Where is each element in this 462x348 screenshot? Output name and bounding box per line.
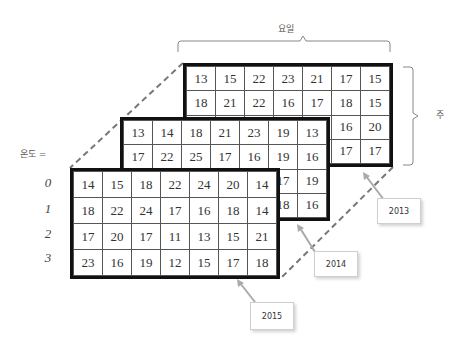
row-label-0: 0: [42, 175, 54, 191]
cell: 17: [332, 67, 361, 91]
table-row: 13141821231913: [124, 121, 327, 145]
cell: 14: [74, 172, 103, 198]
table-row: 18212216171815: [187, 91, 390, 115]
cell: 16: [332, 115, 361, 139]
cell: 22: [161, 172, 190, 198]
cell: 19: [269, 121, 298, 145]
cell: 15: [219, 224, 248, 250]
cell: 13: [187, 67, 216, 91]
cell: 17: [332, 139, 361, 163]
callout-2014: 2014: [314, 251, 358, 277]
cell: 17: [124, 145, 153, 169]
weeks-bracket: [403, 67, 418, 165]
table-row: 23161912151718: [74, 250, 277, 276]
cell: 23: [274, 67, 303, 91]
grid-2015: 14151822242014 18222417161814 1720171113…: [70, 168, 280, 279]
cell: 16: [274, 91, 303, 115]
cell: 17: [361, 139, 390, 163]
cell: 17: [303, 91, 332, 115]
cell: 21: [216, 91, 245, 115]
cell: 17: [74, 224, 103, 250]
cell: 18: [248, 250, 277, 276]
cell: 15: [190, 250, 219, 276]
callout-2013: 2013: [377, 198, 421, 224]
days-bracket: [178, 36, 390, 52]
cell: 11: [161, 224, 190, 250]
callout-pointer-2013: [366, 176, 384, 200]
cell: 23: [74, 250, 103, 276]
cell: 21: [303, 67, 332, 91]
cell: 21: [211, 121, 240, 145]
cell: 24: [132, 198, 161, 224]
cell: 19: [132, 250, 161, 276]
callout-pointer-2015: [240, 283, 255, 302]
cell: 12: [161, 250, 190, 276]
cell: 16: [190, 198, 219, 224]
cell: 17: [211, 145, 240, 169]
cell: 22: [245, 67, 274, 91]
temperature-label: 온도 =: [20, 147, 46, 160]
table-row: 17222517161916: [124, 145, 327, 169]
table-row: 14151822242014: [74, 172, 277, 198]
cell: 17: [219, 250, 248, 276]
cell: 21: [248, 224, 277, 250]
cell: 14: [248, 198, 277, 224]
cell: 18: [132, 172, 161, 198]
table-row: 13152223211715: [187, 67, 390, 91]
cell: 20: [361, 115, 390, 139]
cell: 17: [161, 198, 190, 224]
cell: 25: [182, 145, 211, 169]
cell: 24: [190, 172, 219, 198]
days-label: 요일: [278, 22, 294, 35]
cell: 14: [248, 172, 277, 198]
cell: 23: [240, 121, 269, 145]
weeks-label: 주: [433, 110, 446, 119]
cell: 19: [298, 169, 327, 193]
cell: 13: [190, 224, 219, 250]
cell: 15: [361, 67, 390, 91]
cell: 13: [124, 121, 153, 145]
cell: 16: [103, 250, 132, 276]
cell: 14: [153, 121, 182, 145]
cell: 16: [298, 145, 327, 169]
row-label-1: 1: [42, 201, 54, 217]
cell: 20: [219, 172, 248, 198]
row-label-3: 3: [42, 250, 54, 266]
cell: 19: [269, 145, 298, 169]
cell: 18: [74, 198, 103, 224]
table-row: 17201711131521: [74, 224, 277, 250]
cell: 13: [298, 121, 327, 145]
cell: 16: [240, 145, 269, 169]
callout-2015: 2015: [250, 302, 294, 330]
cell: 15: [216, 67, 245, 91]
cell: 18: [182, 121, 211, 145]
cell: 22: [245, 91, 274, 115]
cell: 20: [103, 224, 132, 250]
cell: 17: [132, 224, 161, 250]
cell: 16: [298, 193, 327, 217]
table-row: 18222417161814: [74, 198, 277, 224]
cell: 22: [153, 145, 182, 169]
cell: 15: [361, 91, 390, 115]
cell: 18: [219, 198, 248, 224]
callout-pointer-2014: [300, 228, 315, 252]
cell: 22: [103, 198, 132, 224]
row-label-2: 2: [42, 226, 54, 242]
cell: 15: [103, 172, 132, 198]
cell: 18: [187, 91, 216, 115]
cell: 18: [332, 91, 361, 115]
